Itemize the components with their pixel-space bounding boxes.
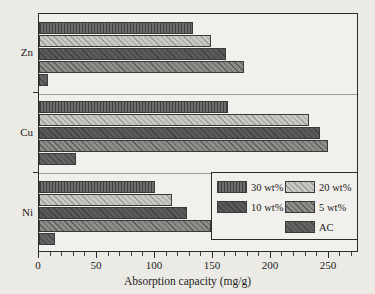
- x-tick-major: [154, 252, 155, 258]
- x-tick-label-250: 250: [308, 259, 348, 271]
- bar-ni-ac: [39, 233, 55, 245]
- legend-swatch-30wt-icon: [217, 181, 247, 193]
- x-tick-minor: [281, 252, 282, 256]
- y-tick-zn-cu: [33, 92, 39, 93]
- bar-cu-20wt: [39, 114, 309, 126]
- x-tick-minor: [258, 252, 259, 256]
- x-tick-major: [212, 252, 213, 258]
- x-tick-label-0: 0: [18, 259, 58, 271]
- legend-label-10wt: 10 wt%: [251, 202, 283, 213]
- x-tick-minor: [351, 252, 352, 256]
- x-tick-minor: [224, 252, 225, 256]
- x-tick-minor: [247, 252, 248, 256]
- x-tick-label-50: 50: [76, 259, 116, 271]
- x-tick-minor: [108, 252, 109, 256]
- legend-swatch-20wt-icon: [285, 181, 315, 193]
- bar-ni-5wt: [39, 220, 211, 232]
- x-tick-major: [38, 252, 39, 258]
- bar-ni-10wt: [39, 207, 187, 219]
- x-tick-minor: [305, 252, 306, 256]
- legend-item-5wt: 5 wt%: [285, 201, 353, 213]
- x-tick-minor: [339, 252, 340, 256]
- x-tick-minor: [293, 252, 294, 256]
- y-tick-cu-ni: [33, 172, 39, 173]
- x-tick-minor: [61, 252, 62, 256]
- bar-cu-ac: [39, 153, 76, 165]
- x-axis-title: Absorption capacity (mg/g): [0, 275, 375, 288]
- legend-label-20wt: 20 wt%: [319, 182, 351, 193]
- x-tick-minor: [84, 252, 85, 256]
- bar-zn-10wt: [39, 48, 226, 60]
- x-tick-minor: [235, 252, 236, 256]
- legend-label-30wt: 30 wt%: [251, 182, 283, 193]
- x-tick-minor: [189, 252, 190, 256]
- x-tick-minor: [177, 252, 178, 256]
- bar-chart: Zn Cu Ni 0 50 100 150 200 250 Absorption…: [0, 0, 375, 294]
- bar-zn-5wt: [39, 61, 244, 73]
- x-tick-label-200: 200: [250, 259, 290, 271]
- x-tick-major: [270, 252, 271, 258]
- legend-label-5wt: 5 wt%: [319, 202, 346, 213]
- x-tick-label-150: 150: [192, 259, 232, 271]
- legend-swatch-ac-icon: [285, 221, 315, 233]
- legend-item-30wt: 30 wt%: [217, 181, 285, 193]
- legend-swatch-5wt-icon: [285, 201, 315, 213]
- legend-swatch-10wt-icon: [217, 201, 247, 213]
- bar-cu-30wt: [39, 101, 228, 113]
- y-label-cu: Cu: [20, 127, 33, 138]
- x-tick-minor: [119, 252, 120, 256]
- x-tick-major: [96, 252, 97, 258]
- x-tick-minor: [73, 252, 74, 256]
- legend: 30 wt% 20 wt% 10 wt% 5 wt% AC: [211, 172, 358, 240]
- x-tick-minor: [166, 252, 167, 256]
- x-tick-minor: [131, 252, 132, 256]
- x-tick-minor: [50, 252, 51, 256]
- y-label-ni: Ni: [22, 207, 33, 218]
- legend-item-20wt: 20 wt%: [285, 181, 353, 193]
- bar-cu-10wt: [39, 127, 320, 139]
- bar-ni-20wt: [39, 194, 172, 206]
- y-label-zn: Zn: [21, 47, 33, 58]
- legend-label-ac: AC: [319, 222, 334, 233]
- legend-item-ac: AC: [285, 221, 353, 233]
- x-tick-label-100: 100: [134, 259, 174, 271]
- group-separator: [39, 94, 357, 95]
- x-tick-major: [328, 252, 329, 258]
- bar-ni-30wt: [39, 181, 155, 193]
- x-tick-minor: [142, 252, 143, 256]
- bar-zn-30wt: [39, 22, 193, 34]
- legend-item-10wt: 10 wt%: [217, 201, 285, 213]
- x-tick-minor: [200, 252, 201, 256]
- x-tick-minor: [316, 252, 317, 256]
- bar-cu-5wt: [39, 140, 328, 152]
- bar-zn-20wt: [39, 35, 211, 47]
- bar-zn-ac: [39, 74, 48, 86]
